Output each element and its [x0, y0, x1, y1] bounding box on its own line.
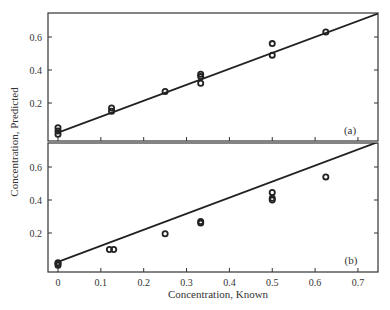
x-tick-label: 0 [56, 277, 61, 288]
data-point [270, 196, 275, 201]
plot-frame [48, 143, 378, 272]
y-tick-label: 0.6 [30, 32, 43, 43]
plot-area [55, 14, 378, 137]
data-point [323, 174, 328, 179]
x-tick-label: 0.5 [266, 277, 279, 288]
y-tick-label: 0.4 [30, 195, 43, 206]
y-axis-label: Concentration, Predicted [8, 87, 20, 197]
x-tick-label: 0.2 [137, 277, 150, 288]
y-tick-label: 0.6 [30, 162, 43, 173]
x-axis-label: Concentration, Known [168, 288, 269, 300]
y-tick-label: 0.4 [30, 65, 43, 76]
data-point [270, 41, 275, 46]
y-tick-label: 0.2 [30, 98, 43, 109]
y-tick-label: 0.2 [30, 228, 43, 239]
panel-a-label: (a) [344, 124, 357, 137]
fit-line [58, 142, 378, 262]
two-panel-scatter-chart: 0.20.40.6 00.10.20.30.40.50.60.70.20.40.… [0, 0, 390, 310]
fit-line [58, 14, 378, 133]
data-point [198, 81, 203, 86]
panel-a: 0.20.40.6 [30, 13, 379, 141]
panel-b-label: (b) [345, 254, 358, 267]
x-tick-label: 0.6 [309, 277, 322, 288]
x-tick-label: 0.7 [352, 277, 365, 288]
data-point [111, 247, 116, 252]
data-point [163, 231, 168, 236]
panel-b: 00.10.20.30.40.50.60.70.20.40.6 [30, 142, 379, 288]
data-point [270, 190, 275, 195]
x-tick-label: 0.1 [95, 277, 108, 288]
data-point [198, 219, 203, 224]
plot-area [55, 142, 378, 268]
x-tick-label: 0.3 [180, 277, 193, 288]
x-tick-label: 0.4 [223, 277, 236, 288]
